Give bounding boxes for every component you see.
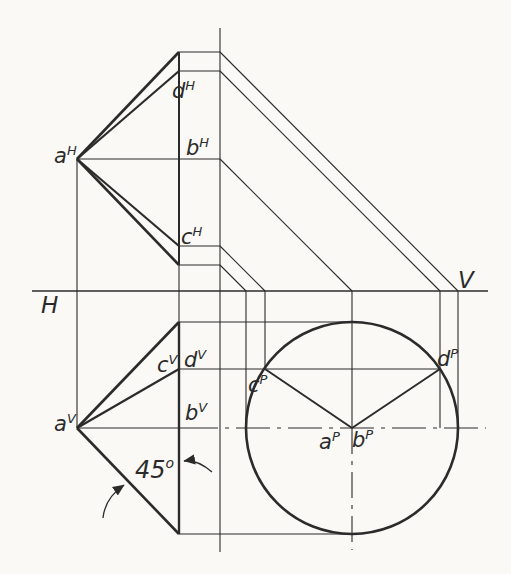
label-d-P: dP bbox=[437, 346, 458, 371]
label-c-V: cV bbox=[157, 352, 179, 377]
miter-diagonal-c bbox=[220, 246, 265, 291]
projection-lines-layer bbox=[32, 28, 488, 552]
label-b-H: bH bbox=[186, 135, 209, 160]
H-fan-edge-c bbox=[77, 159, 179, 246]
angle-arrow-lower bbox=[103, 485, 124, 518]
labels-layer: aHdHbHcHaVcVdVbVcPdPaPbPHV45o bbox=[41, 78, 476, 484]
label-a-H: aH bbox=[54, 143, 77, 168]
miter-diagonal-bottom bbox=[220, 265, 246, 291]
H-fan-edge-d bbox=[77, 71, 179, 159]
label-c-H: cH bbox=[181, 224, 203, 249]
H-fan-top-extreme bbox=[77, 52, 179, 159]
label-a-P: aP bbox=[319, 429, 340, 454]
miter-diagonal-top bbox=[220, 52, 458, 291]
label-45-degrees: 45o bbox=[135, 455, 174, 484]
label-H-plane: H bbox=[41, 292, 58, 318]
miter-diagonal-d bbox=[220, 71, 440, 291]
drawing-page: aHdHbHcHaVcVdVbVcPdPaPbPHV45o bbox=[0, 0, 511, 574]
label-V-plane: V bbox=[458, 267, 476, 293]
label-c-P: cP bbox=[248, 372, 268, 397]
V-fan-edge-cd bbox=[77, 369, 179, 428]
angle-arrow-right bbox=[184, 461, 212, 472]
P-radius-d bbox=[352, 369, 440, 428]
P-radius-c bbox=[265, 369, 352, 428]
label-a-V: aV bbox=[54, 411, 77, 436]
label-b-P: bP bbox=[352, 427, 373, 452]
label-b-V: bV bbox=[185, 400, 208, 425]
label-d-H: dH bbox=[172, 78, 195, 103]
label-d-V: dV bbox=[184, 347, 207, 372]
descriptive-geometry-figure: aHdHbHcHaVcVdVbVcPdPaPbPHV45o bbox=[0, 0, 511, 574]
H-fan-bottom-extreme bbox=[77, 159, 179, 265]
miter-diagonal-b bbox=[220, 159, 352, 291]
